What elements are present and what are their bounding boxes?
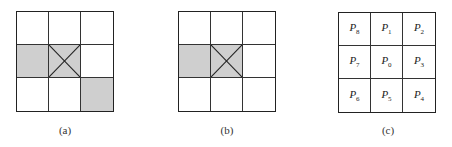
- grid-a-cell-6: [17, 78, 49, 111]
- grid-b-cell-3: [179, 45, 211, 78]
- grid-b-cell-7: [211, 78, 243, 111]
- label-p0: P0: [381, 54, 391, 69]
- label-p2: P2: [414, 21, 424, 36]
- cross-icon: [49, 45, 80, 77]
- grid-a-cell-7: [49, 78, 81, 111]
- caption-a: (a): [45, 124, 85, 136]
- grid-c-cell-p6: P6: [339, 79, 371, 112]
- caption-b: (b): [207, 124, 247, 136]
- grid-b: [178, 11, 276, 112]
- label-p5: P5: [381, 88, 391, 103]
- grid-c-cell-p5: P5: [371, 79, 403, 112]
- label-p6: P6: [349, 88, 359, 103]
- grid-b-cell-8: [243, 78, 275, 111]
- grid-a-cell-2: [81, 12, 113, 45]
- grid-b-cell-6: [179, 78, 211, 111]
- grid-a-cell-0: [17, 12, 49, 45]
- grid-a-cell-5: [81, 45, 113, 78]
- label-p8: P8: [349, 21, 359, 36]
- grid-c: P8 P1 P2 P7 P0 P3 P6 P5 P4: [338, 12, 436, 113]
- label-p7: P7: [349, 54, 359, 69]
- grid-c-cell-p7: P7: [339, 46, 371, 79]
- grid-b-cell-4-center: [211, 45, 243, 78]
- grid-c-cell-p0: P0: [371, 46, 403, 79]
- grid-a-cell-4-center: [49, 45, 81, 78]
- grid-a-cell-8: [81, 78, 113, 111]
- grid-c-cell-p8: P8: [339, 13, 371, 46]
- grid-b-cell-2: [243, 12, 275, 45]
- grid-b-cell-0: [179, 12, 211, 45]
- grid-b-cell-1: [211, 12, 243, 45]
- label-p4: P4: [414, 88, 424, 103]
- grid-c-cell-p1: P1: [371, 13, 403, 46]
- label-p3: P3: [414, 54, 424, 69]
- caption-c: (c): [368, 124, 408, 136]
- grid-c-cell-p4: P4: [403, 79, 435, 112]
- grid-b-cell-5: [243, 45, 275, 78]
- grid-a-cell-3: [17, 45, 49, 78]
- grid-c-cell-p2: P2: [403, 13, 435, 46]
- cross-icon: [211, 45, 242, 77]
- grid-c-cell-p3: P3: [403, 46, 435, 79]
- grid-a-cell-1: [49, 12, 81, 45]
- grid-a: [16, 11, 114, 112]
- label-p1: P1: [381, 21, 391, 36]
